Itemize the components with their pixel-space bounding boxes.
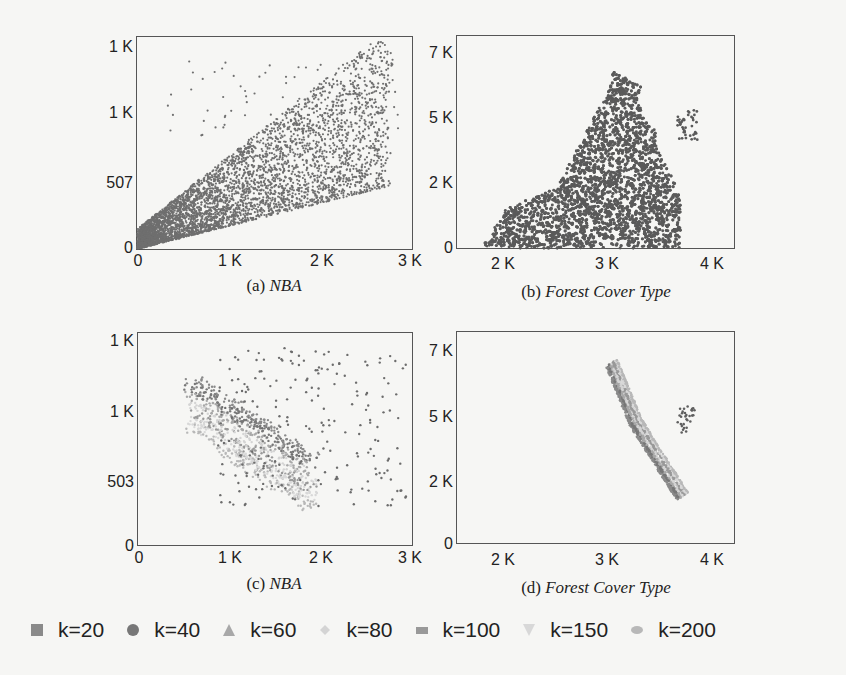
- ytick-d-1: 2 K: [403, 474, 453, 490]
- legend-item-k150: k=150: [522, 618, 608, 642]
- rect-marker-icon: [415, 623, 429, 637]
- legend-item-k60: k=60: [222, 618, 296, 642]
- legend: k=20 k=40 k=60 k=80 k=100 k=150 k=200: [30, 615, 830, 645]
- scatter-points-a: [137, 37, 412, 249]
- circle-marker-icon: [126, 623, 140, 637]
- triangle-down-marker-icon: [522, 623, 536, 637]
- legend-item-k100: k=100: [415, 618, 501, 642]
- ytick-c-2: 1 K: [84, 404, 134, 420]
- scatter-points-c: [138, 333, 412, 545]
- legend-item-k20: k=20: [30, 618, 104, 642]
- caption-c: (c) NBA: [124, 574, 424, 594]
- ytick-d-0: 0: [403, 536, 453, 552]
- xtick-b-0: 2 K: [478, 256, 528, 272]
- plot-area-d: [456, 331, 735, 544]
- plot-area-b: [456, 35, 735, 249]
- ytick-c-3: 1 K: [84, 333, 134, 349]
- xtick-c-1: 1 K: [205, 550, 255, 566]
- xtick-b-2: 4 K: [687, 256, 737, 272]
- scatter-points-b: [457, 36, 734, 248]
- ytick-b-3: 7 K: [403, 45, 453, 61]
- ytick-a-3: 1 K: [83, 39, 133, 55]
- ytick-d-2: 5 K: [403, 409, 453, 425]
- xtick-a-0: 0: [113, 253, 163, 269]
- caption-b: (b) Forest Cover Type: [446, 282, 746, 302]
- caption-d: (d) Forest Cover Type: [446, 578, 746, 598]
- ytick-b-0: 0: [403, 240, 453, 256]
- ytick-d-3: 7 K: [403, 343, 453, 359]
- legend-item-k80: k=80: [318, 618, 392, 642]
- ytick-b-1: 2 K: [403, 175, 453, 191]
- xtick-b-1: 3 K: [582, 256, 632, 272]
- triangle-up-marker-icon: [222, 623, 236, 637]
- legend-item-k40: k=40: [126, 618, 200, 642]
- xtick-a-2: 2 K: [297, 253, 347, 269]
- xtick-a-1: 1 K: [205, 253, 255, 269]
- xtick-d-0: 2 K: [478, 552, 528, 568]
- diamond-marker-icon: [318, 623, 332, 637]
- xtick-d-2: 4 K: [687, 552, 737, 568]
- square-marker-icon: [30, 623, 44, 637]
- scatter-points-d: [457, 332, 734, 543]
- xtick-c-2: 2 K: [296, 550, 346, 566]
- xtick-c-0: 0: [114, 550, 164, 566]
- ytick-a-1: 507: [83, 175, 133, 191]
- ellipse-marker-icon: [630, 623, 644, 637]
- plot-area-c: [137, 332, 413, 546]
- xtick-d-1: 3 K: [582, 552, 632, 568]
- xtick-c-3: 3 K: [385, 550, 435, 566]
- ytick-b-2: 5 K: [403, 110, 453, 126]
- ytick-c-1: 503: [84, 474, 134, 490]
- legend-item-k200: k=200: [630, 618, 716, 642]
- ytick-a-2: 1 K: [83, 105, 133, 121]
- caption-a: (a) NBA: [124, 276, 424, 296]
- plot-area-a: [136, 36, 413, 250]
